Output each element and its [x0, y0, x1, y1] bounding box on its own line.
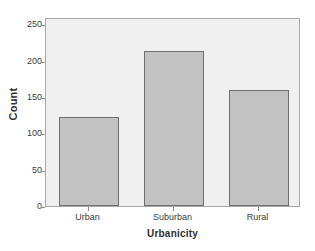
y-axis-tick-label: 200	[20, 57, 42, 66]
x-axis-tick-mark	[173, 207, 174, 211]
x-axis-tick-marks	[45, 207, 300, 211]
y-axis-tick-label: 150	[20, 93, 42, 102]
x-axis-tick-label: Rural	[215, 212, 300, 223]
x-axis-tick-mark	[258, 207, 259, 211]
bar-rural	[229, 90, 289, 206]
x-axis-tick-label: Suburban	[130, 212, 215, 223]
bars-layer	[46, 19, 299, 206]
y-axis-tick-label: 0	[20, 202, 42, 211]
y-axis-tick-label: 50	[20, 166, 42, 175]
x-axis-tick-labels: UrbanSuburbanRural	[45, 212, 300, 226]
plot-area	[45, 18, 300, 207]
y-axis-tick-label: 250	[20, 20, 42, 29]
x-axis-title: Urbanicity	[45, 228, 300, 239]
bar-chart-figure: Count 050100150200250 UrbanSuburbanRural…	[0, 0, 315, 251]
x-axis-tick-mark	[88, 207, 89, 211]
y-axis-tick-label: 100	[20, 129, 42, 138]
bar-urban	[59, 117, 119, 206]
bar-suburban	[144, 51, 204, 206]
y-axis-tick-labels: 050100150200250	[18, 0, 42, 251]
x-axis-tick-label: Urban	[45, 212, 130, 223]
